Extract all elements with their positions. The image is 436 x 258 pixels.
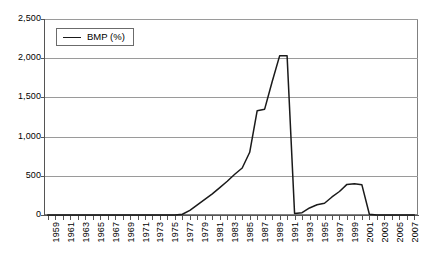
x-axis-tick-label: 1963: [82, 222, 91, 242]
x-axis-tick: [325, 216, 326, 220]
x-axis-tick: [242, 216, 243, 220]
x-axis-tick: [167, 216, 168, 220]
x-axis-tick-label: 1999: [351, 222, 360, 242]
x-axis-tick: [85, 216, 86, 220]
x-axis-tick: [48, 216, 49, 220]
x-axis-tick: [100, 216, 101, 220]
x-axis-tick-label: 1985: [246, 222, 255, 242]
x-axis-tick: [205, 216, 206, 220]
series-bmp-line: [44, 19, 418, 215]
x-axis-tick: [115, 216, 116, 220]
x-axis-tick-label: 1969: [127, 222, 136, 242]
x-axis-tick: [182, 216, 183, 220]
x-axis-tick: [414, 216, 415, 220]
x-axis-tick: [287, 216, 288, 220]
chart-legend: BMP (%): [56, 28, 134, 46]
x-axis-tick-label: 1977: [186, 222, 195, 242]
x-axis-tick-label: 1975: [171, 222, 180, 242]
x-axis-tick: [227, 216, 228, 220]
x-axis-tick-label: 1989: [276, 222, 285, 242]
x-axis-tick: [63, 216, 64, 220]
x-axis-tick: [317, 216, 318, 220]
x-axis-tick-label: 1995: [321, 222, 330, 242]
x-axis-tick: [175, 216, 176, 220]
x-axis-tick: [399, 216, 400, 220]
legend-line-swatch-bmp: [63, 37, 81, 38]
x-axis-tick: [339, 216, 340, 220]
x-axis-tick-label: 1973: [156, 222, 165, 242]
x-axis-tick-label: 1991: [291, 222, 300, 242]
x-axis-tick: [123, 216, 124, 220]
x-axis-tick-label: 1961: [67, 222, 76, 242]
x-axis-tick-label: 2001: [366, 222, 375, 242]
x-axis-tick: [310, 216, 311, 220]
x-axis-tick-label: 1997: [336, 222, 345, 242]
x-axis-tick: [407, 216, 408, 220]
x-axis-tick: [220, 216, 221, 220]
x-axis-tick-label: 1967: [112, 222, 121, 242]
x-axis-tick-label: 1993: [306, 222, 315, 242]
x-axis-tick: [145, 216, 146, 220]
x-axis-tick: [257, 216, 258, 220]
x-axis-tick: [369, 216, 370, 220]
x-axis-tick: [130, 216, 131, 220]
x-axis-tick-label: 1981: [216, 222, 225, 242]
x-axis-tick: [347, 216, 348, 220]
x-axis-tick-label: 1971: [142, 222, 151, 242]
x-axis-tick: [93, 216, 94, 220]
x-axis-tick: [235, 216, 236, 220]
x-axis-tick: [384, 216, 385, 220]
x-axis-tick: [295, 216, 296, 220]
x-axis-tick: [138, 216, 139, 220]
x-axis-tick: [392, 216, 393, 220]
x-axis-tick-label: 2007: [411, 222, 420, 242]
x-axis-tick-label: 2003: [381, 222, 390, 242]
series-path-bmp: [48, 56, 415, 215]
x-axis-tick: [362, 216, 363, 220]
x-axis-tick: [332, 216, 333, 220]
x-axis-tick: [212, 216, 213, 220]
x-axis-tick: [55, 216, 56, 220]
chart-container: 05001,0001,5002,0002,500 195919611963196…: [0, 0, 436, 258]
x-axis-tick: [272, 216, 273, 220]
x-axis-tick: [280, 216, 281, 220]
x-axis-tick: [108, 216, 109, 220]
x-axis-tick: [78, 216, 79, 220]
x-axis-tick: [302, 216, 303, 220]
x-axis-tick-label: 1979: [201, 222, 210, 242]
x-axis-tick: [70, 216, 71, 220]
x-axis-tick: [190, 216, 191, 220]
x-axis-tick: [265, 216, 266, 220]
x-axis-tick-label: 1965: [97, 222, 106, 242]
x-axis-tick: [377, 216, 378, 220]
x-axis-tick: [354, 216, 355, 220]
x-axis-tick-label: 2005: [396, 222, 405, 242]
x-axis-tick-label: 1983: [231, 222, 240, 242]
x-axis-tick-label: 1987: [261, 222, 270, 242]
x-axis-tick: [250, 216, 251, 220]
x-axis-tick: [197, 216, 198, 220]
legend-label-bmp: BMP (%): [87, 32, 125, 42]
x-axis-tick: [160, 216, 161, 220]
x-axis-tick: [152, 216, 153, 220]
x-axis-tick-label: 1959: [52, 222, 61, 242]
